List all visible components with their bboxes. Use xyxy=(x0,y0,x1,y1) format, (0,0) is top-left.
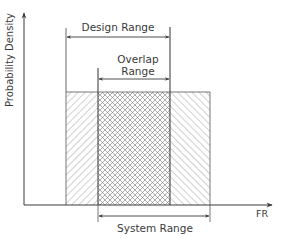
overlap-region xyxy=(98,92,170,205)
system-range-label: System Range xyxy=(117,222,193,234)
x-axis-label: FR xyxy=(256,208,268,219)
overlap-range-label-line1: Overlap xyxy=(117,53,159,65)
overlap-range-label-line2: Range xyxy=(121,65,154,77)
range-overlap-diagram: Design Range Overlap Range System Range … xyxy=(0,0,300,238)
y-axis-label: Probability Density xyxy=(4,13,15,107)
design-only-region xyxy=(66,92,98,205)
system-only-region xyxy=(170,92,210,205)
design-range-label: Design Range xyxy=(82,21,155,33)
